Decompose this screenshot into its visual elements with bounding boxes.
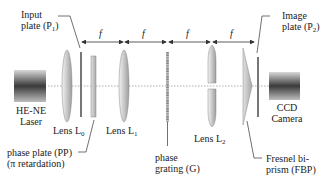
phase-grating-label-line2: grating (G) — [155, 163, 200, 174]
input-plate-label-line1: Input — [21, 9, 59, 20]
image-plate-label-line2: plate (P2) — [282, 21, 320, 32]
laser-label-line2: Laser — [14, 116, 48, 127]
input-plate-label-line2: plate (P1) — [21, 20, 59, 31]
phase-grating-label-line1: phase — [155, 152, 200, 163]
input-plate-label: Input plate (P1) — [21, 9, 59, 31]
fresnel-biprism-label: Fresnel bi- prism (FBP) — [266, 153, 316, 175]
camera-label: CCD Camera — [270, 102, 304, 124]
phase-grating-label: phase grating (G) — [155, 152, 200, 174]
ccd-camera-icon — [269, 72, 300, 100]
focal-label-4: f — [230, 28, 233, 39]
laser-label-line1: HE-NE — [14, 105, 48, 116]
lens-l2-icon — [208, 45, 216, 127]
image-plate-label: Image plate (P2) — [282, 10, 320, 32]
phase-plate-label: phase plate (PP) (π retardation) — [7, 147, 72, 169]
focal-label-2: f — [142, 28, 145, 39]
focal-label-1: f — [99, 28, 102, 39]
lens-l1-icon — [119, 50, 129, 122]
lens-l0-icon — [62, 50, 72, 122]
lens-l0-label: Lens L0 — [53, 125, 85, 136]
laser-icon — [14, 70, 46, 102]
phase-grating-icon — [166, 52, 169, 122]
image-plate-icon — [257, 57, 259, 117]
focal-label-3: f — [186, 28, 189, 39]
phase-plate-label-line2: (π retardation) — [7, 158, 72, 169]
laser-label: HE-NE Laser — [14, 105, 48, 127]
camera-label-line2: Camera — [270, 113, 304, 124]
leader-lines — [58, 16, 270, 158]
lens-l2-label: Lens L2 — [194, 133, 226, 144]
input-plate-icon — [80, 52, 82, 117]
fresnel-biprism-icon — [243, 48, 252, 125]
camera-label-line1: CCD — [270, 102, 304, 113]
phase-plate-icon — [91, 56, 96, 117]
phase-plate-label-line1: phase plate (PP) — [7, 147, 72, 158]
fresnel-label-line1: Fresnel bi- — [266, 153, 316, 164]
image-plate-label-line1: Image — [282, 10, 320, 21]
lens-l1-label: Lens L1 — [106, 125, 138, 136]
fresnel-label-line2: prism (FBP) — [266, 164, 316, 175]
